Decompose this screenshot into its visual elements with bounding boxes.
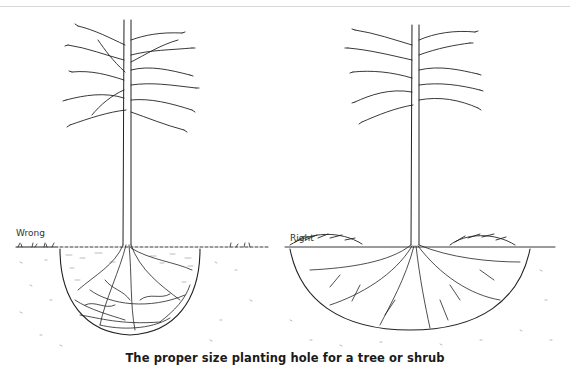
crown-right — [345, 29, 483, 124]
roots-wrong — [75, 245, 192, 330]
trunk-right — [411, 25, 419, 245]
trunk-wrong — [123, 20, 131, 245]
wrong-panel — [16, 20, 270, 346]
label-wrong: Wrong — [16, 228, 45, 238]
figure-caption: The proper size planting hole for a tree… — [0, 351, 570, 365]
planting-diagram — [0, 0, 570, 384]
mulch-right — [450, 234, 515, 245]
backfill-soil-wrong — [66, 253, 193, 282]
native-soil-wrong — [20, 260, 252, 346]
roots-right — [310, 245, 520, 328]
right-panel — [285, 25, 555, 346]
ground-line-wrong — [16, 243, 270, 247]
label-right: Right — [290, 233, 314, 243]
